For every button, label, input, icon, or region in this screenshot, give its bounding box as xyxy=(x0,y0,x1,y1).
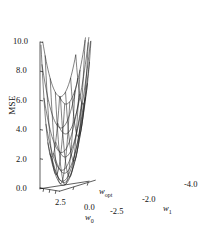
mesh-curves-constant-w0 xyxy=(42,37,91,185)
axis-label-w0-sub: 0 xyxy=(91,218,94,224)
w-opt-sub: opt xyxy=(105,192,113,198)
axis-label-w0: w0 xyxy=(85,213,94,226)
z-tick-4: 4.0 xyxy=(16,125,27,134)
z-tick-8: 8.0 xyxy=(16,66,27,75)
z-tick-10: 10.0 xyxy=(13,37,28,46)
axis-label-w1: w1 xyxy=(163,204,172,217)
x-tick-0: 0.0 xyxy=(84,203,95,212)
axis-label-mse: MSE xyxy=(7,85,17,125)
z-tick-0: 0.0 xyxy=(16,184,27,193)
y-tick-m4: -4.0 xyxy=(184,180,197,189)
y-tick-m2: -2.0 xyxy=(142,195,155,204)
z-tick-2: 2.0 xyxy=(16,155,27,164)
axis-label-w1-sub: 1 xyxy=(169,209,172,215)
x-tick-m2p5: -2.5 xyxy=(110,207,123,216)
w-opt-annotation: wopt xyxy=(99,187,112,200)
z-tick-6: 6.0 xyxy=(16,96,27,105)
x-tick-2p5: 2.5 xyxy=(55,198,66,207)
mse-surface-figure: MSE 10.0 8.0 6.0 4.0 2.0 0.0 2.5 0.0 -2.… xyxy=(0,0,215,227)
